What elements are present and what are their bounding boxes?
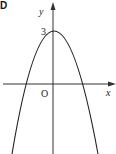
y-axis-arrow-icon (51, 2, 56, 10)
x-axis-arrow-icon (108, 82, 116, 87)
y-intercept-label: 3 (41, 26, 46, 37)
x-axis-label: x (105, 87, 111, 98)
option-label: D (0, 0, 7, 11)
y-axis-label: y (38, 6, 44, 17)
origin-label: O (41, 88, 48, 99)
parabola-curve (12, 31, 98, 154)
parabola-diagram: D y x O 3 (0, 0, 116, 154)
